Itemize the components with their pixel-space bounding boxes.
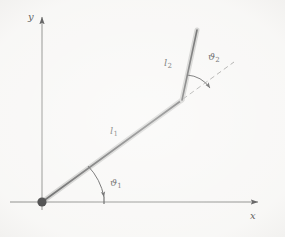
angle-2-label: ϑ2	[208, 52, 220, 64]
link-2-line	[182, 30, 197, 100]
link-2	[182, 30, 197, 100]
angle-1-label: ϑ1	[110, 178, 122, 190]
link-1-label-subscript: 1	[113, 130, 117, 138]
angle-2-label-subscript: 2	[215, 56, 219, 64]
x-axis-label: x	[250, 211, 256, 221]
link-2-label-subscript: 2	[167, 62, 171, 70]
kinematic-diagram-figure: y x l1 l2 ϑ1 ϑ2	[0, 0, 285, 237]
link-1-label: l1	[110, 126, 118, 138]
y-axis-label: y	[28, 12, 34, 22]
diagram-canvas	[0, 0, 285, 237]
angle-1-arc	[88, 166, 104, 197]
angle-1-label-subscript: 1	[117, 182, 121, 190]
link-2-label: l2	[164, 58, 172, 70]
base-pivot-marker	[37, 197, 46, 206]
